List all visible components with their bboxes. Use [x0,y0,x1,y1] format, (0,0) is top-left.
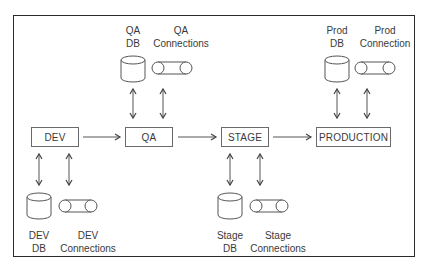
dev-conn-label: DEVConnections [54,229,122,255]
stage-db-cylinder-icon [218,193,242,219]
dev-db-label: DEVDB [19,229,59,255]
stage-conn-label: StageConnections [244,229,312,255]
env-label-stage: STAGE [228,132,262,143]
prod-db-cylinder-icon [325,56,349,82]
env-label-production: PRODUCTION [319,132,388,143]
dev-connection-pipe-icon [59,200,97,212]
stage-connection-pipe-icon [250,200,288,212]
env-box-production: PRODUCTION [316,127,391,147]
prod-conn-label: ProdConnection [352,24,418,50]
env-label-dev: DEV [44,132,65,143]
dev-db-cylinder-icon [27,193,51,219]
qa-connection-pipe-icon [152,62,192,74]
env-label-qa: QA [142,132,157,143]
prod-connection-pipe-icon [355,62,395,74]
env-box-qa: QA [125,127,173,147]
env-box-dev: DEV [31,127,79,147]
qa-conn-label: QAConnections [147,24,215,50]
qa-db-cylinder-icon [121,56,145,82]
env-box-stage: STAGE [221,127,269,147]
prod-db-label: ProdDB [317,24,357,50]
